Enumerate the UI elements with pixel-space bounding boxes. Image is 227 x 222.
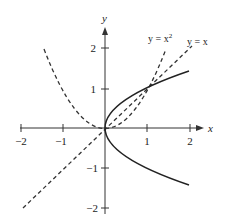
chart: −2 −1 1 2 x 2 1 −1 −2 y y = x2 y = x <box>0 0 227 222</box>
y-tick-label: −2 <box>86 202 98 214</box>
x-tick-label: −2 <box>15 135 27 147</box>
x-tick-label: −1 <box>55 135 67 147</box>
curve-y-equals-x <box>23 46 192 208</box>
x-axis: −2 −1 1 2 x <box>15 122 213 147</box>
y-axis-arrow-icon <box>102 27 108 35</box>
x-tick-label: 1 <box>144 135 150 147</box>
y-tick-label: −1 <box>86 162 98 174</box>
y-axis: 2 1 −1 −2 y <box>86 12 109 214</box>
y-tick-label: 1 <box>91 83 97 95</box>
y-axis-label: y <box>101 12 107 24</box>
x-axis-arrow-icon <box>196 125 204 131</box>
x-axis-label: x <box>207 122 213 134</box>
x-tick-label: 2 <box>187 135 193 147</box>
y-tick-label: 2 <box>91 42 97 54</box>
label-y-equals-x: y = x <box>187 36 208 47</box>
label-y-equals-x-squared: y = x2 <box>148 32 173 44</box>
